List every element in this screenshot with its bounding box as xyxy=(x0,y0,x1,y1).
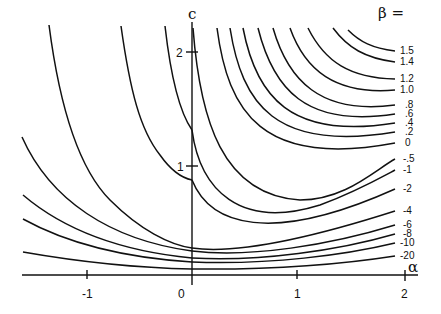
y-tick-label: 1 xyxy=(177,160,184,174)
curve-beta--8 xyxy=(192,234,395,259)
beta-label: -4 xyxy=(403,205,412,216)
curve-beta-.2 xyxy=(230,28,395,137)
beta-label: 0 xyxy=(405,137,411,148)
beta-legend-title: β = xyxy=(378,4,404,22)
beta-label: -20 xyxy=(400,250,415,261)
curve-beta--1 xyxy=(192,130,395,213)
curve-beta--4 xyxy=(192,211,395,249)
x-tick-label: 2 xyxy=(401,287,408,301)
beta-label: -.5 xyxy=(403,153,415,164)
x-tick-label: -1 xyxy=(82,287,93,301)
x-tick-label: 0 xyxy=(178,287,185,301)
beta-label: .2 xyxy=(405,126,414,137)
beta-label: -1 xyxy=(403,164,412,175)
curve-beta-1.4 xyxy=(333,28,395,62)
curve xyxy=(22,137,192,251)
curve-beta-0 xyxy=(217,28,395,149)
c-axis-label: c xyxy=(188,5,196,23)
beta-label: -10 xyxy=(400,237,415,248)
beta-label: 1.0 xyxy=(400,84,414,95)
chart: c α β = -1 0 1 2 2 1 1.5 1.4 1.2 1.0 .8 … xyxy=(0,0,441,314)
beta-label: 1.2 xyxy=(400,73,414,84)
curve-beta-.6 xyxy=(258,28,395,117)
curve xyxy=(165,26,192,130)
beta-label: 1.4 xyxy=(400,56,414,67)
curve-beta-1.2 xyxy=(308,28,395,79)
y-tick-label: 2 xyxy=(176,46,183,60)
beta-label: -2 xyxy=(403,183,412,194)
beta-label: 1.5 xyxy=(400,45,414,56)
x-tick-label: 1 xyxy=(294,287,301,301)
curve-beta-.8 xyxy=(273,28,395,107)
curve xyxy=(49,25,192,248)
curve-beta-1.5 xyxy=(348,30,395,51)
